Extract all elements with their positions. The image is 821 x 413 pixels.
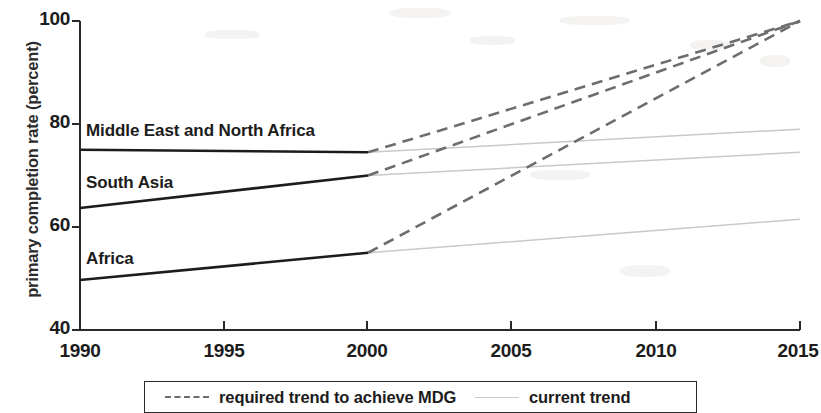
legend-label-required-trend: required trend to achieve MDG [219,388,456,407]
legend-entry-required-trend: required trend to achieve MDG [165,382,456,412]
legend-label-current-trend: current trend [529,388,630,407]
plot-area [0,0,821,413]
series-line-middle-east-and-north-africa-current [368,129,800,152]
series-line-south-asia-current [368,152,800,175]
chart-figure: primary completion rate (percent) 100 80… [0,0,821,413]
chart-legend: required trend to achieve MDG current tr… [144,381,697,413]
series-line-south-asia-required [368,21,800,176]
series-label-middle-east-and-north-africa: Middle East and North Africa [86,121,315,141]
dashed-line-icon [165,396,209,398]
series-line-middle-east-and-north-africa-historical [80,150,368,153]
series-label-south-asia: South Asia [86,173,173,193]
solid-line-icon [475,397,519,398]
series-line-africa-required [368,21,800,253]
series-layer [80,21,800,280]
legend-entry-current-trend: current trend [475,382,630,412]
series-line-africa-current [368,219,800,252]
series-label-africa: Africa [86,249,134,269]
